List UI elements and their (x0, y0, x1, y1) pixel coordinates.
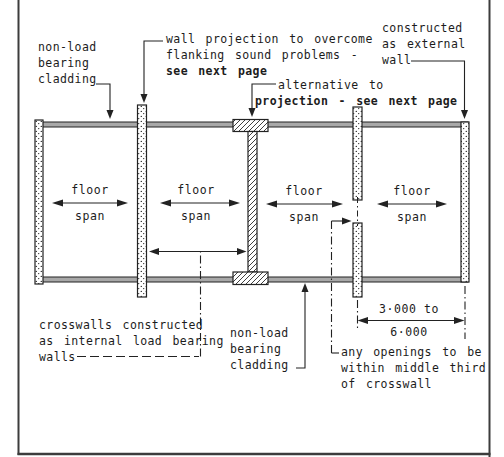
leader-wall-projection (141, 41, 164, 103)
crosswall-flanged-alternative (233, 120, 268, 285)
span-text: span (266, 211, 342, 224)
leader-cladding-bottom (296, 283, 309, 368)
leader-cladding-top (96, 84, 114, 119)
external-wall-right (461, 122, 469, 282)
dimension-lower-text: 6·000 (353, 325, 465, 339)
label-line: any openings to be (341, 344, 486, 360)
floor-text: floor (266, 185, 342, 198)
span-text: span (374, 211, 450, 224)
span-text: span (52, 210, 128, 223)
floor-text: floor (374, 185, 450, 198)
figure-crosswall-construction: non-load bearing cladding wall projectio… (0, 0, 504, 457)
label-crosswalls: crosswalls constructed as internal load … (39, 317, 224, 365)
leader-external-wall (411, 61, 468, 119)
crosswall-with-opening (353, 107, 362, 297)
label-line: cladding (38, 71, 97, 87)
span-text: span (158, 210, 234, 223)
label-line: of crosswall (341, 376, 486, 392)
label-line: as internal load bearing (39, 333, 224, 349)
label-line: walls (39, 349, 224, 365)
label-openings: any openings to be within middle third o… (341, 344, 486, 392)
label-line: flanking sound problems - (166, 47, 373, 63)
floor-span-label-bay3: floor span (266, 185, 342, 224)
label-cladding-top: non-load bearing cladding (38, 39, 97, 87)
label-wall-projection: wall projection to overcome flanking sou… (166, 31, 373, 79)
label-alternative-line1: alternative to (278, 77, 384, 93)
floor-text: floor (158, 184, 234, 197)
label-line: non-load (38, 39, 97, 55)
floor-span-label-bay1: floor span (52, 184, 128, 223)
leader-openings (332, 218, 352, 354)
label-line: crosswalls constructed (39, 317, 224, 333)
label-line: within middle third (341, 360, 486, 376)
label-line: wall projection to overcome (166, 31, 373, 47)
label-line: wall (382, 52, 466, 68)
label-external-wall: constructed as external wall (382, 20, 466, 68)
label-line: bearing (38, 55, 97, 71)
floor-span-label-bay2: floor span (158, 184, 234, 223)
label-cladding-bottom: non-load bearing cladding (230, 325, 289, 373)
label-alternative-line2: projection - see next page (255, 93, 457, 109)
dimension-upper-text: 3·000 to (353, 302, 465, 316)
crosswall-with-projection (138, 105, 147, 297)
floor-span-label-bay4: floor span (374, 185, 450, 224)
label-line: non-load (230, 325, 289, 341)
label-line: as external (382, 36, 466, 52)
floor-text: floor (52, 184, 128, 197)
end-wall-left (35, 120, 43, 284)
label-line: constructed (382, 20, 466, 36)
label-line: bearing (230, 341, 289, 357)
label-line: cladding (230, 357, 289, 373)
